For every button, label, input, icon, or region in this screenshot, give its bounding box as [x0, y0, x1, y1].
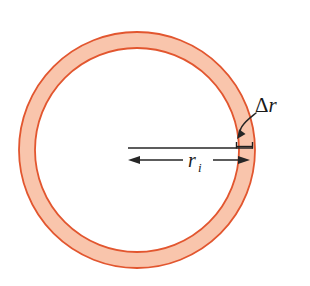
annulus-fill: [0, 0, 310, 286]
delta-r-label: Δr: [255, 93, 278, 117]
delta-symbol: Δ: [255, 93, 269, 117]
annulus-diagram: Δr r i: [0, 0, 310, 286]
figure-container: Δr r i: [0, 0, 310, 286]
inner-radius-subscript: i: [198, 160, 202, 175]
delta-r-radius-symbol: r: [269, 93, 278, 117]
annulus-band: [0, 0, 310, 286]
inner-radius-symbol: r: [188, 149, 196, 171]
